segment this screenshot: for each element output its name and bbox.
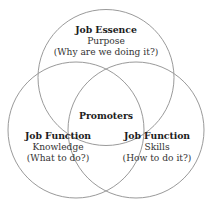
- label-promoters-text: Promoters: [62, 110, 150, 122]
- label-job-function-skills-title: Job Function: [104, 130, 210, 142]
- label-intersection-promoters: Promoters: [62, 110, 150, 122]
- venn-diagram: Job Essence Purpose (Why are we doing it…: [0, 0, 212, 211]
- label-job-function-skills-question: (How to do it?): [104, 153, 210, 164]
- label-job-function-knowledge-question: (What to do?): [6, 153, 110, 164]
- label-job-function-knowledge-title: Job Function: [6, 130, 110, 142]
- label-job-essence-title: Job Essence: [36, 24, 176, 36]
- label-job-essence-subtitle: Purpose: [36, 36, 176, 47]
- label-job-essence: Job Essence Purpose (Why are we doing it…: [36, 24, 176, 59]
- label-job-essence-question: (Why are we doing it?): [36, 47, 176, 58]
- label-job-function-knowledge-subtitle: Knowledge: [6, 142, 110, 153]
- label-job-function-knowledge: Job Function Knowledge (What to do?): [6, 130, 110, 165]
- label-job-function-skills-subtitle: Skills: [104, 142, 210, 153]
- label-job-function-skills: Job Function Skills (How to do it?): [104, 130, 210, 165]
